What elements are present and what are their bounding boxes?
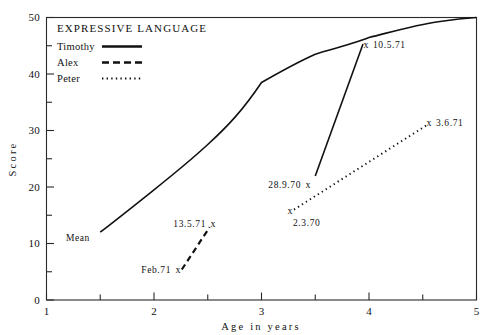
y-tick-label-0: 0 (34, 294, 40, 306)
series-annotation-alex-feb-71: Feb.71 (141, 265, 171, 275)
plot-frame (47, 18, 477, 301)
series-annotation-peter-2-3-70: 2.3.70 (293, 218, 320, 228)
marker-x-peter-start: x (288, 205, 293, 216)
x-tick-label-1: 1 (44, 305, 50, 317)
x-tick-label-3: 3 (259, 305, 265, 317)
series-line-mean (100, 18, 476, 233)
y-tick-label-20: 20 (29, 181, 41, 193)
chart-legend: EXPRESSIVE LANGUAGE Timothy Alex Peter (57, 22, 207, 84)
series-line-timothy (315, 44, 363, 176)
x-tick-label-2: 2 (151, 305, 157, 317)
marker-x-peter-end: x (427, 117, 432, 128)
series-annotation-peter-3-6-71: 3.6.71 (436, 118, 463, 128)
series-annotation-alex-13-5-71: 13.5.71 (173, 219, 206, 229)
marker-x-alex-start: x (176, 264, 181, 275)
series-line-alex (182, 227, 210, 269)
y-axis-tick-labels: 0 10 20 30 40 50 (29, 11, 41, 306)
series-annotation-timothy-28-9-70: 28.9.70 (268, 180, 301, 190)
marker-x-timothy-start: x (306, 179, 311, 190)
legend-label-timothy: Timothy (57, 41, 95, 52)
legend-title: EXPRESSIVE LANGUAGE (57, 22, 207, 34)
chart-figure: 0 10 20 30 40 50 Score 1 2 3 (0, 0, 493, 335)
y-tick-label-10: 10 (29, 237, 41, 249)
y-axis-minor-ticks (47, 46, 53, 272)
y-tick-label-50: 50 (29, 11, 41, 23)
x-axis-tick-labels: 1 2 3 4 5 (44, 305, 480, 317)
series-annotation-timothy-10-5-71: 10.5.71 (373, 40, 406, 50)
x-axis-title: Age in years (221, 321, 300, 332)
series-annotation-mean: Mean (66, 233, 90, 243)
legend-label-alex: Alex (57, 57, 79, 68)
marker-x-timothy-end: x (364, 39, 369, 50)
legend-label-peter: Peter (57, 73, 80, 84)
y-tick-label-40: 40 (29, 68, 41, 80)
x-tick-label-4: 4 (366, 305, 372, 317)
x-axis-major-ticks (47, 293, 477, 301)
x-tick-label-5: 5 (474, 305, 480, 317)
y-axis-title: Score (7, 142, 18, 177)
expressive-language-chart: 0 10 20 30 40 50 Score 1 2 3 (0, 0, 493, 335)
series-line-peter (294, 125, 427, 210)
y-tick-label-30: 30 (29, 124, 41, 136)
marker-x-alex-end: x (211, 218, 216, 229)
